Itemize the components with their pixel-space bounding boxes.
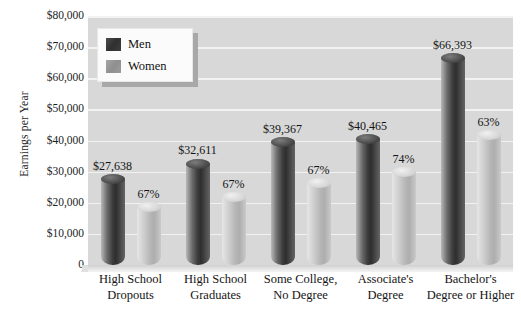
value-label-men-1: $32,611 [158, 144, 238, 157]
x-axis-label-4: Bachelor'sDegree or Higher [411, 272, 521, 303]
bar-men-2 [271, 137, 295, 265]
value-label-women-3: 74% [364, 153, 444, 166]
legend-label-men: Men [128, 38, 151, 51]
y-axis-tick-50000: $50,000 [22, 103, 84, 115]
value-label-men-0: $27,638 [88, 160, 153, 173]
value-label-men-3: $40,465 [328, 120, 408, 133]
value-label-women-1: 67% [194, 178, 274, 191]
bar-men-4 [441, 53, 465, 265]
earnings-by-education-bar-chart: Earnings per Year 0$10,000$20,000$30,000… [0, 0, 521, 317]
bar-cap [222, 192, 246, 202]
bar-women-0 [137, 202, 161, 265]
bar-men-1 [186, 159, 210, 266]
legend-swatch-men-icon [106, 38, 121, 51]
bar-body [477, 135, 501, 265]
x-axis-label-line: Bachelor's [411, 272, 521, 288]
x-axis-label-line: Degree or Higher [411, 288, 521, 304]
value-label-men-2: $39,367 [243, 123, 323, 136]
x-axis-category-labels: High SchoolDropoutsHigh SchoolGraduatesS… [88, 272, 513, 317]
bar-women-3 [392, 167, 416, 265]
y-axis-tick-labels: 0$10,000$20,000$30,000$40,000$50,000$60,… [22, 0, 84, 317]
bar-cap [477, 130, 501, 140]
bar-cap [356, 134, 380, 144]
bar-body [392, 172, 416, 265]
axis-floor-corner [78, 265, 88, 272]
legend-swatch-women-icon [106, 60, 121, 73]
legend-box: MenWomen [97, 28, 193, 82]
legend-item-women: Women [106, 60, 167, 73]
bar-cap [186, 159, 210, 169]
y-axis-tick-0: 0 [22, 259, 84, 271]
legend-label-women: Women [128, 60, 167, 73]
gridline [88, 16, 513, 18]
y-axis-tick-40000: $40,000 [22, 135, 84, 147]
bar-body [137, 207, 161, 265]
bar-body [307, 183, 331, 265]
y-axis-tick-30000: $30,000 [22, 166, 84, 178]
bar-women-4 [477, 130, 501, 265]
value-label-women-2: 67% [279, 164, 359, 177]
axis-floor [82, 265, 513, 272]
bar-cap [101, 174, 125, 184]
y-axis-tick-80000: $80,000 [22, 10, 84, 22]
y-axis-tick-10000: $10,000 [22, 228, 84, 240]
bar-cap [307, 178, 331, 188]
y-axis-tick-20000: $20,000 [22, 197, 84, 209]
bar-body [222, 197, 246, 265]
bar-body [271, 142, 295, 265]
y-axis-tick-60000: $60,000 [22, 72, 84, 84]
value-label-women-0: 67% [109, 188, 189, 201]
bar-women-2 [307, 178, 331, 265]
y-axis-tick-70000: $70,000 [22, 41, 84, 53]
bar-cap [392, 167, 416, 177]
legend-item-men: Men [106, 38, 151, 51]
bar-body [441, 58, 465, 265]
legend: MenWomen [97, 28, 193, 82]
bar-women-1 [222, 192, 246, 265]
value-label-men-4: $66,393 [413, 39, 493, 52]
value-label-women-4: 63% [449, 116, 514, 129]
